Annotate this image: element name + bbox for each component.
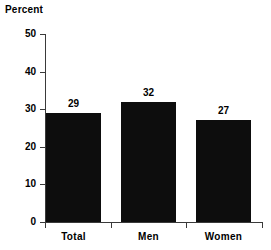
- y-tick-mark: [40, 184, 45, 185]
- y-tick-label: 40: [10, 67, 36, 77]
- x-tick-mark: [111, 223, 112, 228]
- y-tick-mark: [40, 34, 45, 35]
- x-tick-mark: [45, 223, 46, 228]
- category-label: Men: [113, 231, 184, 242]
- bar-value-label: 29: [46, 99, 101, 109]
- bar-value-label: 27: [196, 106, 251, 116]
- y-tick-mark: [40, 72, 45, 73]
- bar: [46, 113, 101, 222]
- bar-value-label: 32: [121, 88, 176, 98]
- y-tick-label: 10: [10, 179, 36, 189]
- y-tick-label: 30: [10, 104, 36, 114]
- category-label: Total: [38, 231, 109, 242]
- y-tick-label: 50: [10, 29, 36, 39]
- bar: [196, 120, 251, 222]
- x-axis-line: [45, 222, 263, 223]
- plot-area: 01020304050 293227 TotalMenWomen: [0, 0, 271, 250]
- x-tick-mark: [262, 223, 263, 228]
- y-tick-mark: [40, 109, 45, 110]
- y-tick-label: 20: [10, 142, 36, 152]
- y-tick-mark: [40, 147, 45, 148]
- bar: [121, 102, 176, 222]
- bar-chart: Percent 01020304050 293227 TotalMenWomen: [0, 0, 271, 250]
- y-tick-label: 0: [10, 217, 36, 227]
- category-label: Women: [188, 231, 259, 242]
- x-tick-mark: [186, 223, 187, 228]
